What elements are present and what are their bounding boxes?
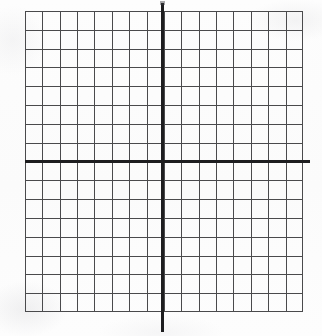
y-axis bbox=[161, 3, 164, 332]
x-axis bbox=[25, 160, 310, 163]
coordinate-grid-worksheet bbox=[0, 0, 322, 336]
grid-border-bottom bbox=[25, 311, 303, 312]
y-axis-top-tick-mark bbox=[160, 1, 165, 5]
